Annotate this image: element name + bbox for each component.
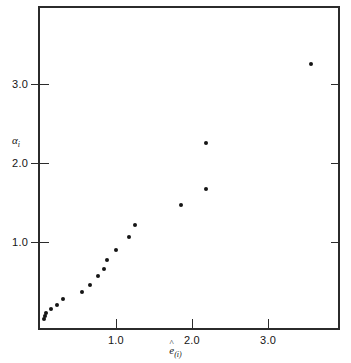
x-axis-label: ^e(i) — [0, 344, 351, 359]
hat-accent-icon: ^ — [170, 339, 174, 348]
data-point — [88, 283, 92, 287]
x-tick-mark — [268, 319, 269, 328]
data-point — [96, 274, 100, 278]
data-point — [102, 267, 106, 271]
y-tick-mark — [40, 84, 49, 85]
y-axis-label-sub: i — [18, 140, 20, 149]
y-tick-mark-outer — [31, 163, 38, 164]
data-point — [61, 297, 65, 301]
data-point — [133, 223, 137, 227]
y-tick-mark-right — [331, 163, 339, 164]
x-tick-mark — [116, 319, 117, 328]
y-tick-mark — [40, 163, 49, 164]
scatter-plot-figure: 1.02.03.01.02.03.0 αi ^e(i) — [0, 0, 351, 363]
y-tick-label: 2.0 — [6, 157, 28, 169]
plot-frame — [38, 6, 340, 330]
data-point — [114, 248, 118, 252]
x-tick-mark — [192, 319, 193, 328]
data-point — [204, 187, 208, 191]
y-tick-mark-right — [331, 84, 339, 85]
y-tick-mark-outer — [31, 242, 38, 243]
data-point — [55, 303, 59, 307]
data-point — [179, 203, 183, 207]
y-axis-label: αi — [12, 134, 20, 149]
y-tick-label: 3.0 — [6, 78, 28, 90]
y-tick-mark-right — [331, 242, 339, 243]
data-point — [309, 62, 313, 66]
data-point — [127, 235, 131, 239]
data-point — [80, 290, 84, 294]
y-tick-mark-outer — [31, 84, 38, 85]
x-axis-label-hat-group: ^e — [169, 344, 174, 356]
data-point — [49, 307, 53, 311]
y-tick-label: 1.0 — [6, 236, 28, 248]
data-point — [44, 311, 48, 315]
y-tick-mark — [40, 242, 49, 243]
x-axis-label-sub: (i) — [174, 350, 182, 359]
data-point — [204, 141, 208, 145]
data-point — [105, 258, 109, 262]
